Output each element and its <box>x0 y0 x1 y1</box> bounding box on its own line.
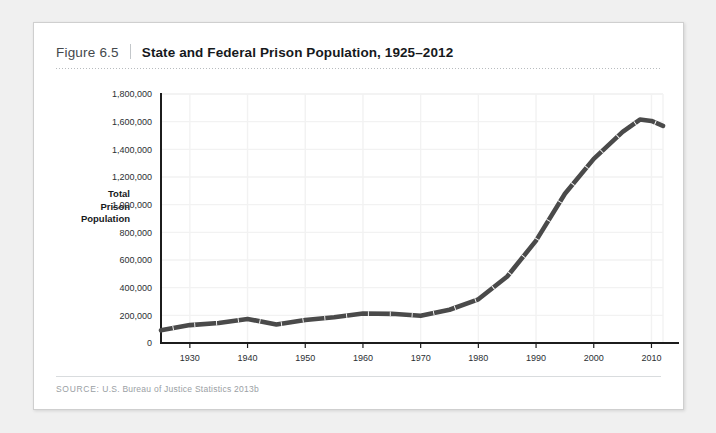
x-axis-tick-label: 1990 <box>526 353 546 363</box>
prison-population-line-chart: 0200,000400,000600,000800,0001,000,0001,… <box>34 23 685 411</box>
x-axis-tick-label: 1980 <box>468 353 488 363</box>
data-line <box>161 120 663 331</box>
source-divider <box>56 376 661 377</box>
data-line-segment-gaps <box>161 120 663 331</box>
y-axis-tick-label: 400,000 <box>119 283 152 293</box>
y-axis-tick-label: 1,200,000 <box>112 172 152 182</box>
y-axis-tick-labels: 0200,000400,000600,000800,0001,000,0001,… <box>112 89 152 348</box>
chart-area: 0200,000400,000600,000800,0001,000,0001,… <box>34 23 685 411</box>
x-axis-tick-label: 2010 <box>641 353 661 363</box>
x-axis-tick-label: 1970 <box>411 353 431 363</box>
x-axis-tick-label: 1960 <box>353 353 373 363</box>
chart-axes <box>160 93 679 343</box>
figure-card: Figure 6.5 State and Federal Prison Popu… <box>33 22 684 410</box>
chart-gridlines <box>161 94 663 343</box>
source-label: SOURCE: <box>56 384 100 394</box>
y-axis-tick-label: 800,000 <box>119 228 152 238</box>
source-note: SOURCE: U.S. Bureau of Justice Statistic… <box>56 384 259 394</box>
y-axis-tick-label: 600,000 <box>119 255 152 265</box>
y-axis-tick-label: 1,000,000 <box>112 200 152 210</box>
x-axis-tick-labels: 193019401950196019701980199020002010 <box>180 353 662 363</box>
y-axis-tick-label: 1,400,000 <box>112 145 152 155</box>
x-axis-tick-label: 1930 <box>180 353 200 363</box>
x-axis-tick-label: 1940 <box>238 353 258 363</box>
source-value: U.S. Bureau of Justice Statistics 2013b <box>100 384 259 394</box>
y-axis-tick-label: 200,000 <box>119 311 152 321</box>
x-axis-tick-label: 2000 <box>584 353 604 363</box>
y-axis-tick-label: 0 <box>147 338 152 348</box>
y-axis-tick-label: 1,600,000 <box>112 117 152 127</box>
series-total-prison-population <box>161 120 663 331</box>
y-axis-tick-label: 1,800,000 <box>112 89 152 99</box>
x-axis-tick-label: 1950 <box>295 353 315 363</box>
